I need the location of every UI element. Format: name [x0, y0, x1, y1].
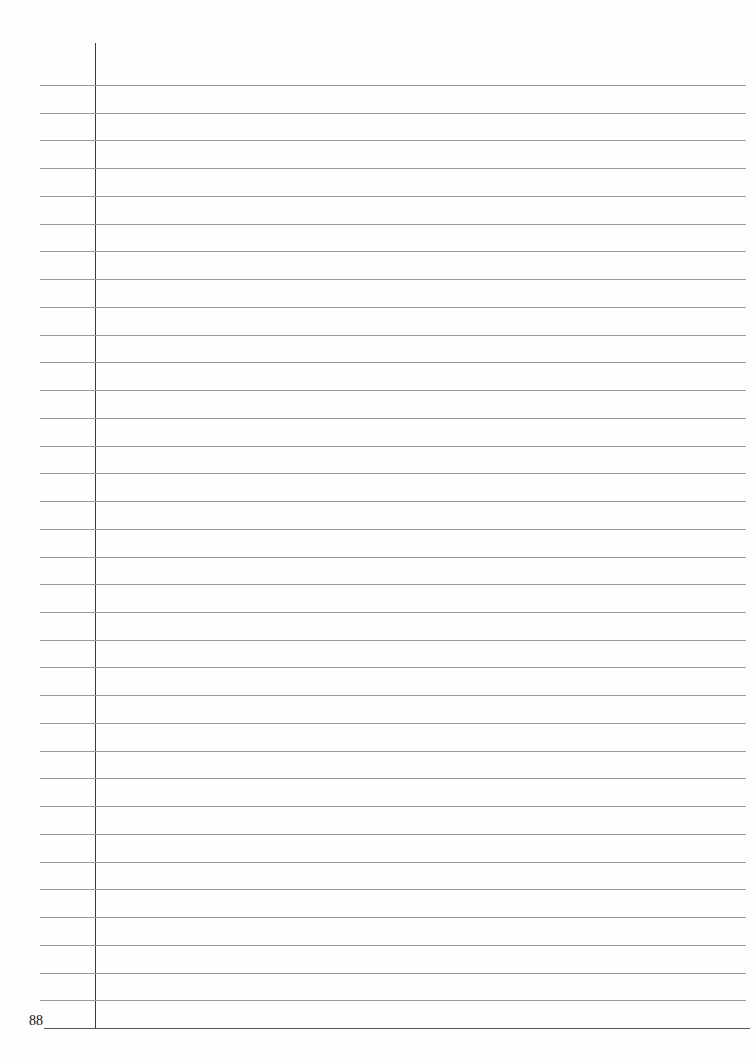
ruled-line — [40, 917, 746, 918]
ruled-line — [40, 113, 746, 114]
ruled-line — [40, 973, 746, 974]
ruled-line — [40, 751, 746, 752]
ruled-line — [40, 806, 746, 807]
ruled-line — [40, 723, 746, 724]
ruled-line — [44, 1028, 750, 1029]
ruled-line — [40, 557, 746, 558]
ruled-line — [40, 140, 746, 141]
ruled-line — [40, 335, 746, 336]
ruled-line — [40, 307, 746, 308]
ruled-line — [40, 85, 746, 86]
ruled-line — [40, 362, 746, 363]
ruled-line — [40, 778, 746, 779]
margin-line — [95, 43, 96, 1029]
ruled-line — [40, 889, 746, 890]
ruled-line — [40, 1000, 746, 1001]
ruled-line — [40, 168, 746, 169]
ruled-line — [40, 196, 746, 197]
notebook-page: 88 — [0, 0, 753, 1057]
ruled-line — [40, 862, 746, 863]
ruled-line — [40, 945, 746, 946]
ruled-line — [40, 529, 746, 530]
ruled-line — [40, 695, 746, 696]
page-number: 88 — [29, 1014, 43, 1028]
ruled-line — [40, 584, 746, 585]
ruled-line — [40, 224, 746, 225]
ruled-line — [40, 279, 746, 280]
ruled-line — [40, 446, 746, 447]
ruled-line — [40, 640, 746, 641]
ruled-line — [40, 612, 746, 613]
ruled-line — [40, 501, 746, 502]
ruled-line — [40, 418, 746, 419]
ruled-line — [40, 667, 746, 668]
ruled-line — [40, 390, 746, 391]
ruled-line — [40, 473, 746, 474]
ruled-line — [40, 834, 746, 835]
ruled-line — [40, 251, 746, 252]
